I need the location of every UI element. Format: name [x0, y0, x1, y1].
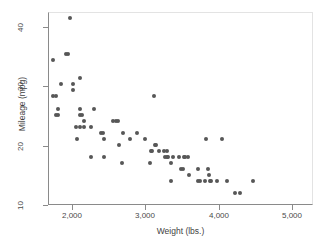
data-point — [51, 58, 55, 62]
data-point — [251, 179, 255, 183]
x-tick-2000 — [72, 205, 73, 210]
data-point — [233, 191, 237, 195]
data-point — [121, 131, 125, 135]
data-point — [177, 155, 181, 159]
data-point — [117, 143, 121, 147]
data-point — [102, 137, 106, 141]
data-point — [198, 179, 202, 183]
data-point — [143, 137, 147, 141]
scatter-plot-figure: 40 30 20 10 2,000 3,000 4,000 5,000 Weig… — [0, 0, 330, 246]
data-point — [166, 155, 170, 159]
x-tick-4000 — [219, 205, 220, 210]
data-point — [59, 82, 63, 86]
data-point — [71, 88, 75, 92]
data-point — [89, 125, 93, 129]
data-point — [150, 149, 154, 153]
y-tick-10 — [43, 205, 48, 206]
data-point — [196, 167, 200, 171]
data-point — [157, 149, 161, 153]
data-point — [220, 137, 224, 141]
data-point — [152, 94, 156, 98]
x-axis-title: Weight (lbs.) — [48, 226, 313, 236]
data-point — [102, 155, 106, 159]
x-tick-5000 — [292, 205, 293, 210]
data-point — [89, 155, 93, 159]
data-point — [68, 16, 72, 20]
x-tick-label-5000: 5,000 — [270, 211, 314, 220]
data-point — [187, 173, 191, 177]
data-point — [56, 113, 60, 117]
data-point — [82, 125, 86, 129]
data-point — [116, 119, 120, 123]
data-point — [204, 137, 208, 141]
data-point — [238, 191, 242, 195]
data-point — [66, 52, 70, 56]
data-point — [101, 131, 105, 135]
data-point — [148, 161, 152, 165]
data-point — [165, 149, 169, 153]
data-point — [82, 119, 86, 123]
data-point — [203, 179, 207, 183]
data-point — [181, 167, 185, 171]
data-point — [154, 143, 158, 147]
data-point — [128, 137, 132, 141]
x-tick-label-3000: 3,000 — [123, 211, 167, 220]
data-point — [74, 125, 78, 129]
data-point — [75, 137, 79, 141]
x-tick-3000 — [145, 205, 146, 210]
data-point — [206, 167, 210, 171]
data-point — [207, 173, 211, 177]
data-point — [78, 107, 82, 111]
data-point — [169, 161, 173, 165]
data-point — [120, 161, 124, 165]
data-point — [92, 107, 96, 111]
data-point — [169, 179, 173, 183]
data-point — [171, 155, 175, 159]
data-point — [215, 179, 219, 183]
data-point — [71, 82, 75, 86]
data-point — [186, 155, 190, 159]
y-axis-title: Mileage (mpg) — [17, 14, 27, 194]
data-points-layer — [48, 12, 313, 205]
data-point — [209, 179, 213, 183]
data-point — [135, 131, 139, 135]
data-point — [78, 76, 82, 80]
x-tick-label-2000: 2,000 — [50, 211, 94, 220]
x-tick-label-4000: 4,000 — [197, 211, 241, 220]
data-point — [56, 107, 60, 111]
data-point — [54, 94, 58, 98]
data-point — [225, 179, 229, 183]
data-point — [80, 113, 84, 117]
